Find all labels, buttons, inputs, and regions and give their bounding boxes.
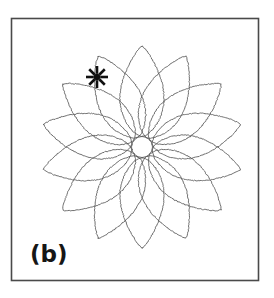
starburst-core xyxy=(94,74,100,80)
figure-canvas: (b) xyxy=(0,0,274,298)
figure-panel: (b) xyxy=(0,0,274,298)
starburst-marker xyxy=(86,66,108,88)
panel-label: (b) xyxy=(30,241,68,267)
